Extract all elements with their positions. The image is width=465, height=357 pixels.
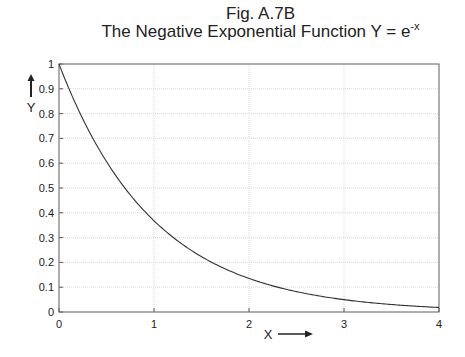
y-tick-label: 0.8 xyxy=(39,108,54,120)
x-tick-label: 1 xyxy=(151,318,157,330)
y-tick-label: 0.7 xyxy=(39,132,54,144)
y-axis-label: Y xyxy=(27,100,36,115)
x-axis-label: X xyxy=(264,327,273,342)
y-tick-label: 0.6 xyxy=(39,157,54,169)
y-tick-label: 0 xyxy=(48,306,54,318)
y-tick-label: 0.9 xyxy=(39,83,54,95)
x-tick-label: 0 xyxy=(56,318,62,330)
x-tick-label: 2 xyxy=(246,318,252,330)
x-tick-label: 3 xyxy=(341,318,347,330)
y-tick-label: 1 xyxy=(48,58,54,70)
y-axis-arrowhead xyxy=(28,74,35,81)
x-tick-label: 4 xyxy=(436,318,442,330)
y-tick-label: 0.1 xyxy=(39,281,54,293)
y-tick-label: 0.2 xyxy=(39,256,54,268)
y-tick-label: 0.4 xyxy=(39,207,54,219)
chart-plot: 00.10.20.30.40.50.60.70.80.9101234YX xyxy=(0,0,465,357)
x-axis-arrowhead xyxy=(305,331,313,338)
y-tick-label: 0.3 xyxy=(39,232,54,244)
y-tick-label: 0.5 xyxy=(39,182,54,194)
